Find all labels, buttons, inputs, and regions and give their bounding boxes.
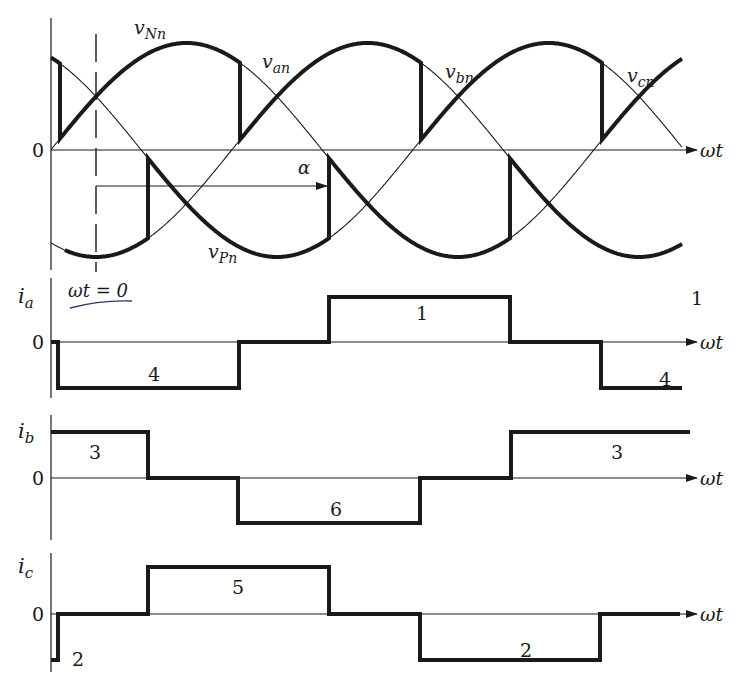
thyristor-number-label: 2 xyxy=(72,648,84,670)
envelope-vPn xyxy=(65,158,682,257)
label-vNn: vNn xyxy=(134,16,166,42)
label-vcn: vcn xyxy=(627,64,655,90)
thyristor-number-label: 5 xyxy=(232,576,244,598)
voltage-zero-label: 0 xyxy=(32,139,44,161)
ib-zero-label: 0 xyxy=(32,467,44,489)
thyristor-number-label: 4 xyxy=(148,363,160,385)
envelope-vNn xyxy=(51,43,682,140)
ib-wt-label: ωt xyxy=(700,467,723,489)
wt-zero-annotation: ωt = 0 xyxy=(68,280,128,301)
thyristor-number-label: 3 xyxy=(611,441,623,463)
ia-axis-label: ia xyxy=(18,284,34,312)
ia-zero-label: 0 xyxy=(32,331,44,353)
thyristor-number-label: 1 xyxy=(691,287,703,309)
label-vbn: vbn xyxy=(445,60,474,86)
ia-wt-label: ωt xyxy=(700,331,723,353)
thyristor-number-label: 6 xyxy=(330,498,342,520)
thyristor-number-label: 4 xyxy=(659,368,671,390)
current-plot-ic: ic0ωt252 xyxy=(18,553,723,672)
current-plot-ib: ib0ωt363 xyxy=(18,415,723,540)
thyristor-number-label: 2 xyxy=(520,639,532,661)
phase-current-plots: ia0ωt4114ωt = 0ib0ωt363ic0ωt252 xyxy=(18,278,723,672)
handwritten-underline xyxy=(70,301,132,308)
thyristor-number-label: 1 xyxy=(416,302,428,324)
thyristor-bridge-waveform-diagram: α 0 ωt vanvbnvcnvNnvPn ia0ωt4114ωt = 0ib… xyxy=(0,0,746,697)
voltage-axis-label: ωt xyxy=(700,139,723,161)
alpha-label: α xyxy=(298,157,310,178)
ic-axis-label: ic xyxy=(18,554,34,582)
label-van: van xyxy=(262,50,290,76)
current-plot-ia: ia0ωt4114ωt = 0 xyxy=(18,278,723,398)
voltage-plot: α 0 ωt vanvbnvcnvNnvPn xyxy=(32,16,723,272)
ic-wt-label: ωt xyxy=(700,603,723,625)
thyristor-number-label: 3 xyxy=(89,441,101,463)
ic-zero-label: 0 xyxy=(32,603,44,625)
ib-axis-label: ib xyxy=(18,419,34,447)
